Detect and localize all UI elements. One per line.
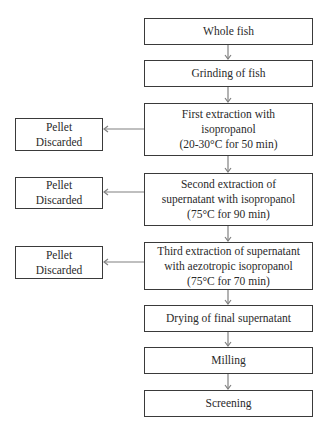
side-label: Discarded	[36, 263, 83, 278]
pellet-discarded-1: Pellet Discarded	[15, 118, 103, 151]
step-drying: Drying of final supernatant	[144, 305, 313, 332]
step-label: Drying of final supernatant	[166, 311, 291, 326]
step-label: supernatant with isopropanol	[162, 192, 296, 207]
pellet-discarded-3: Pellet Discarded	[15, 246, 103, 279]
step-third-extraction: Third extraction of supernatant with aez…	[144, 242, 313, 290]
pellet-discarded-2: Pellet Discarded	[15, 177, 103, 209]
step-label: Milling	[211, 353, 246, 368]
side-label: Discarded	[36, 193, 83, 208]
step-label: First extraction with	[182, 107, 275, 122]
step-label: Whole fish	[203, 24, 254, 39]
side-label: Discarded	[36, 135, 83, 150]
side-label: Pellet	[46, 120, 72, 135]
step-label: Third extraction of supernatant	[157, 244, 300, 259]
step-condition: (75°C for 70 min)	[187, 274, 270, 289]
step-grinding: Grinding of fish	[144, 60, 313, 87]
step-label: isopropanol	[201, 122, 255, 137]
step-second-extraction: Second extraction of supernatant with is…	[144, 173, 313, 226]
side-label: Pellet	[46, 248, 72, 263]
step-milling: Milling	[144, 347, 313, 374]
step-first-extraction: First extraction with isopropanol (20-30…	[144, 103, 313, 156]
step-whole-fish: Whole fish	[144, 18, 313, 45]
step-label: Second extraction of	[181, 177, 276, 192]
step-screening: Screening	[144, 390, 313, 417]
step-label: Grinding of fish	[191, 66, 265, 81]
step-condition: (20-30°C for 50 min)	[179, 137, 277, 152]
step-label: Screening	[206, 396, 252, 411]
step-condition: (75°C for 90 min)	[187, 207, 270, 222]
step-label: with aezotropic isopropanol	[164, 259, 292, 274]
side-label: Pellet	[46, 178, 72, 193]
